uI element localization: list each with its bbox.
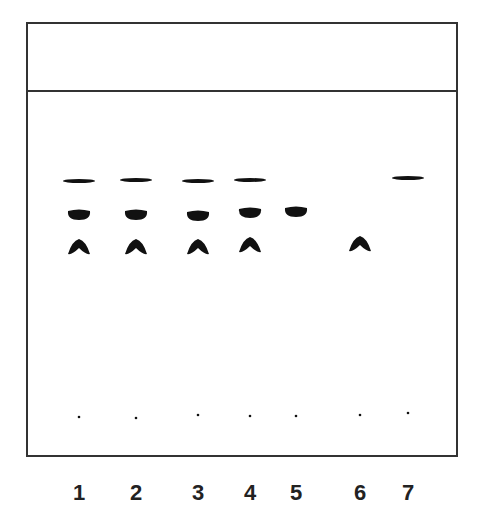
- chevron-spot: [239, 237, 261, 252]
- origin-dot: [295, 415, 298, 418]
- origin-dot: [78, 416, 81, 419]
- lane-2: [120, 178, 152, 419]
- chevron-spot: [349, 236, 371, 251]
- chevron-spot: [125, 239, 147, 254]
- origin-dot: [249, 415, 252, 418]
- spots-layer: [0, 0, 480, 524]
- lane-label-2: 2: [121, 480, 151, 506]
- oval-spot: [239, 208, 261, 219]
- lane-label-4: 4: [235, 480, 265, 506]
- band-spot: [120, 178, 152, 182]
- oval-spot: [125, 210, 147, 221]
- lane-5: [285, 207, 307, 418]
- band-spot: [234, 178, 266, 182]
- lane-6: [349, 236, 371, 416]
- lane-4: [234, 178, 266, 417]
- chevron-spot: [68, 239, 90, 254]
- lane-label-5: 5: [281, 480, 311, 506]
- lane-label-7: 7: [393, 480, 423, 506]
- origin-dot: [197, 414, 200, 417]
- lane-7: [392, 176, 424, 414]
- band-spot: [182, 179, 214, 183]
- oval-spot: [285, 207, 307, 218]
- oval-spot: [187, 211, 209, 222]
- lane-3: [182, 179, 214, 416]
- origin-dot: [135, 417, 138, 420]
- origin-dot: [407, 412, 410, 415]
- lane-1: [63, 179, 95, 418]
- chevron-spot: [187, 239, 209, 254]
- oval-spot: [68, 210, 90, 221]
- lane-label-3: 3: [183, 480, 213, 506]
- origin-dot: [359, 414, 362, 417]
- lane-label-6: 6: [345, 480, 375, 506]
- lane-label-1: 1: [64, 480, 94, 506]
- band-spot: [392, 176, 424, 180]
- band-spot: [63, 179, 95, 183]
